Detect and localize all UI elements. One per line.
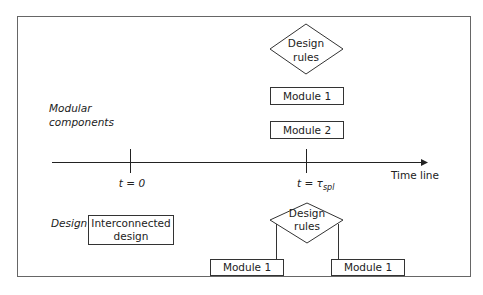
time-line-label: Time line [390,169,439,181]
design-label: Design [51,217,87,229]
frame [18,17,471,277]
modular-components-label-2: components [49,116,114,128]
module-2-label: Module 2 [283,124,331,136]
module-right-label: Module 1 [344,261,392,273]
module-left-label: Module 1 [223,261,271,273]
design-rules-top-line2: rules [293,51,319,63]
interconnected-line2: design [114,230,149,242]
diagram-canvas: Design rules Module 1 Module 2 Modular c… [0,0,483,295]
design-rules-top-line1: Design [288,37,324,49]
module-1-top-label: Module 1 [283,90,331,102]
t0-label: t = 0 [119,177,146,189]
modular-components-label-1: Modular [49,102,92,114]
design-rules-bottom-line2: rules [294,220,320,232]
interconnected-line1: Interconnected [91,217,170,229]
design-rules-bottom-line1: Design [289,207,325,219]
